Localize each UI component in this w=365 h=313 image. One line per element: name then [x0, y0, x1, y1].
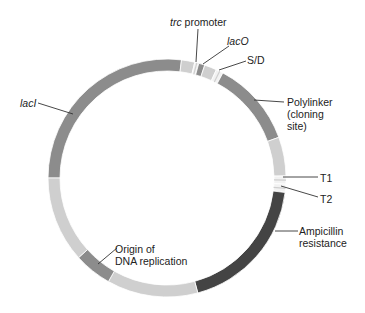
sd-leader [219, 61, 246, 70]
label-polylinker-line1: Polylinker [287, 96, 333, 108]
segment-polylinker [217, 73, 279, 141]
label-ori-line1: Origin of [115, 243, 187, 255]
label-origin: Origin of DNA replication [115, 243, 187, 267]
segment-spacer-5 [48, 178, 87, 258]
label-ori-line2: DNA replication [115, 255, 187, 267]
segment-ampicillin-resistance [195, 191, 285, 293]
t2-leader [281, 186, 318, 197]
label-amp-line1: Ampicillin [299, 225, 347, 237]
segment-spacer-3 [268, 137, 286, 176]
label-trc-italic: trc [170, 16, 182, 28]
segment-spacer-4 [108, 271, 197, 297]
label-amp-line2: resistance [299, 237, 347, 249]
label-t1: T1 [320, 172, 332, 184]
laco-leader [203, 46, 229, 64]
label-t2: T2 [320, 193, 332, 205]
label-sd: S/D [247, 54, 265, 66]
label-ampicillin: Ampicillin resistance [299, 225, 347, 249]
label-trc-text: promoter [182, 16, 227, 28]
label-polylinker: Polylinker (cloning site) [287, 96, 333, 132]
segment-lacI [48, 59, 182, 178]
label-trc-promoter: trc promoter [170, 16, 227, 28]
label-laci: lacI [20, 97, 36, 109]
label-polylinker-line3: site) [287, 120, 333, 132]
label-polylinker-line2: (cloning [287, 108, 333, 120]
trc-leader [196, 29, 198, 62]
label-laco: lacO [227, 35, 249, 47]
laci-leader [38, 103, 73, 114]
